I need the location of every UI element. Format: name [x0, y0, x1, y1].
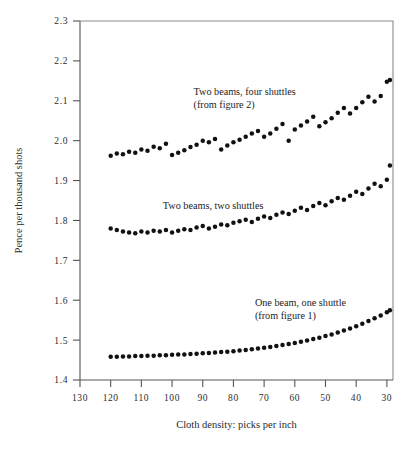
- data-point: [231, 221, 236, 226]
- data-point: [274, 344, 279, 349]
- data-point: [151, 144, 156, 149]
- data-point: [170, 353, 175, 358]
- data-point: [182, 352, 187, 357]
- data-point: [201, 138, 206, 143]
- data-point: [237, 219, 242, 224]
- data-point: [231, 140, 236, 145]
- data-point: [145, 353, 150, 358]
- data-point: [250, 347, 255, 352]
- data-point: [274, 213, 279, 218]
- data-point: [151, 229, 156, 234]
- y-tick-label: 1.5: [54, 336, 68, 346]
- y-tick-label: 2.2: [54, 56, 68, 66]
- data-point: [360, 322, 365, 327]
- annotation-line: Two beams, four shuttles: [194, 86, 296, 97]
- annotation-line: (from figure 2): [194, 99, 255, 111]
- data-point: [115, 151, 120, 156]
- data-point: [194, 225, 199, 230]
- data-point: [213, 137, 218, 142]
- data-point: [133, 354, 138, 359]
- data-point: [329, 332, 334, 337]
- x-tick-label: 130: [72, 393, 88, 403]
- data-point: [329, 116, 334, 121]
- data-point: [115, 355, 120, 360]
- data-point: [305, 338, 310, 343]
- data-point: [133, 150, 138, 155]
- data-point: [342, 328, 347, 333]
- y-tick-label: 1.7: [54, 256, 68, 266]
- data-point: [115, 228, 120, 233]
- data-point: [243, 348, 248, 353]
- data-point: [133, 231, 138, 236]
- data-point: [299, 123, 304, 128]
- data-point: [286, 212, 291, 217]
- data-point: [372, 182, 377, 187]
- data-point: [388, 308, 393, 313]
- data-point: [170, 230, 175, 235]
- data-point: [219, 222, 224, 227]
- y-tick-label: 2.1: [54, 96, 68, 106]
- y-tick-label: 1.9: [54, 176, 68, 186]
- data-point: [243, 217, 248, 222]
- data-point: [108, 226, 113, 231]
- data-point: [388, 163, 393, 168]
- data-point: [305, 208, 310, 213]
- data-point: [250, 220, 255, 225]
- x-tick-label: 60: [289, 393, 300, 403]
- data-point: [108, 154, 113, 159]
- data-point: [201, 351, 206, 356]
- scatter-chart: 1.41.51.61.71.81.92.02.12.22.31301201101…: [0, 0, 417, 450]
- y-tick-label: 2.0: [54, 136, 68, 146]
- data-point: [317, 335, 322, 340]
- data-point: [170, 153, 175, 158]
- data-point: [372, 99, 377, 104]
- two-beams-four-shuttles-label: Two beams, four shuttles(from figure 2): [194, 86, 296, 111]
- data-point: [348, 193, 353, 198]
- data-point: [231, 349, 236, 354]
- data-point: [225, 349, 230, 354]
- data-point: [336, 196, 341, 201]
- data-point: [225, 143, 230, 148]
- x-tick-label: 70: [259, 393, 270, 403]
- data-point: [139, 229, 144, 234]
- data-point: [360, 192, 365, 197]
- data-point: [378, 94, 383, 99]
- data-point: [182, 148, 187, 153]
- data-point: [188, 228, 193, 233]
- x-tick-label: 120: [103, 393, 119, 403]
- data-point: [164, 353, 169, 358]
- data-point: [127, 354, 132, 359]
- x-tick-label: 110: [134, 393, 150, 403]
- y-tick-label: 1.4: [54, 375, 68, 385]
- data-point: [366, 319, 371, 324]
- data-point: [323, 334, 328, 339]
- data-point: [194, 142, 199, 147]
- one-beam-one-shuttle-label: One beam, one shuttle(from figure 1): [255, 297, 347, 322]
- data-point: [268, 345, 273, 350]
- data-point: [219, 147, 224, 152]
- data-point: [366, 95, 371, 100]
- data-point: [286, 138, 291, 143]
- data-point: [348, 111, 353, 116]
- data-point: [207, 351, 212, 356]
- data-point: [293, 127, 298, 132]
- data-point: [262, 345, 267, 350]
- data-point: [158, 353, 163, 358]
- data-point: [256, 217, 261, 222]
- data-point: [385, 178, 390, 183]
- data-point: [182, 227, 187, 232]
- data-point: [293, 341, 298, 346]
- series-points: [108, 308, 392, 359]
- x-axis-label: Cloth density: picks per inch: [176, 419, 297, 430]
- data-point: [354, 189, 359, 194]
- data-point: [317, 201, 322, 206]
- x-tick-label: 40: [351, 393, 362, 403]
- data-point: [237, 138, 242, 143]
- data-point: [311, 337, 316, 342]
- x-tick-label: 90: [197, 393, 208, 403]
- data-point: [108, 355, 113, 360]
- data-point: [336, 110, 341, 115]
- figure-container: 1.41.51.61.71.81.92.02.12.22.31301201101…: [0, 0, 417, 450]
- data-point: [121, 354, 126, 359]
- data-point: [323, 203, 328, 208]
